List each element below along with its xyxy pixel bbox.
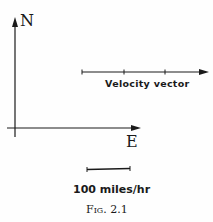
figure-caption: Fig. 2.1 [86, 203, 128, 216]
north-arrowhead-icon [12, 17, 18, 27]
vector-arrowhead-icon [199, 69, 209, 75]
east-arrowhead-icon [131, 125, 141, 131]
north-label: N [20, 11, 34, 30]
figure: N E Velocity vector 100 miles/hr Fig. 2.… [0, 0, 213, 222]
scale-label: 100 miles/hr [73, 183, 150, 196]
velocity-vector-label: Velocity vector [105, 78, 190, 89]
east-label: E [126, 132, 138, 151]
scale-bar [87, 169, 130, 170]
